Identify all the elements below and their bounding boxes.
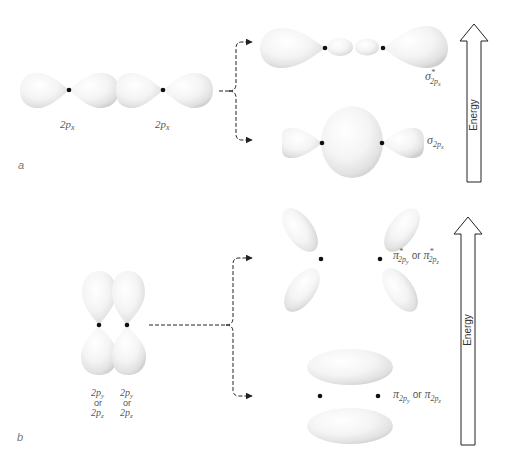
mo-label-sigma-star: σ*2px xyxy=(425,68,441,87)
central-lobe xyxy=(321,106,383,178)
ao-label-right: 2px xyxy=(155,118,170,132)
p-lobe xyxy=(112,271,145,325)
outer-lobe xyxy=(382,128,424,158)
atomic-orbital-2px-right xyxy=(116,73,213,108)
atomic-orbital-2py-left xyxy=(81,271,117,375)
p-lobe xyxy=(112,325,146,375)
splitting-arrows-a xyxy=(219,42,252,140)
lobe xyxy=(275,202,325,258)
nucleus-dot xyxy=(318,394,323,399)
p-lobe xyxy=(69,73,119,108)
panel-letter-b: b xyxy=(17,431,23,443)
nucleus-dot xyxy=(381,46,386,51)
nucleus-dot xyxy=(319,257,324,262)
energy-arrow-a: Energy xyxy=(460,24,488,182)
svg-text:2pz: 2pz xyxy=(120,407,133,420)
panel-b: 2py or 2pz 2py or 2pz π*2pyorπ*2pz xyxy=(17,202,482,445)
mo-diagram: 2px 2px σ*2px σ2px xyxy=(0,0,508,455)
inner-lobe xyxy=(355,39,379,56)
nucleus-dot xyxy=(97,323,102,328)
inner-lobe xyxy=(327,38,353,56)
svg-text:2pz: 2pz xyxy=(91,407,104,420)
nucleus-dot xyxy=(378,257,383,262)
energy-label-b: Energy xyxy=(462,314,473,346)
lobe xyxy=(277,262,327,318)
p-lobe xyxy=(163,73,213,108)
atomic-orbital-2px-left xyxy=(20,73,119,108)
nucleus-dot xyxy=(67,88,72,93)
splitting-arrows-b xyxy=(149,258,252,396)
nucleus-dot xyxy=(323,46,328,51)
outer-lobe xyxy=(282,128,322,158)
p-lobe xyxy=(20,73,69,108)
p-lobe xyxy=(116,73,163,108)
lobe xyxy=(307,349,393,385)
mo-sigma-star-2px xyxy=(260,26,448,68)
lobe xyxy=(375,262,425,318)
ao-label-right-b: 2py or 2pz xyxy=(120,387,134,420)
nucleus-dot xyxy=(320,141,325,146)
nucleus-dot xyxy=(376,394,381,399)
energy-arrow-b: Energy xyxy=(454,217,482,445)
outer-lobe xyxy=(383,26,448,68)
mo-label-sigma: σ2px xyxy=(427,133,444,150)
mo-label-pi-star: π*2pyorπ*2pz xyxy=(393,247,440,265)
lobe xyxy=(307,408,393,444)
p-lobe xyxy=(82,271,116,325)
panel-letter-a: a xyxy=(18,159,24,171)
mo-pi-2p xyxy=(307,349,393,444)
outer-lobe xyxy=(260,28,325,68)
mo-label-pi: π2pyorπ2pz xyxy=(393,387,442,404)
panel-a: 2px 2px σ*2px σ2px xyxy=(18,24,488,182)
ao-label-left: 2px xyxy=(60,118,75,132)
atomic-orbital-2py-right xyxy=(112,271,146,375)
mo-sigma-2px xyxy=(282,106,424,178)
energy-label-a: Energy xyxy=(468,99,479,131)
ao-label-left-b: 2py or 2pz xyxy=(91,387,105,420)
p-lobe xyxy=(81,325,117,375)
nucleus-dot xyxy=(161,88,166,93)
nucleus-dot xyxy=(380,141,385,146)
nucleus-dot xyxy=(125,323,130,328)
